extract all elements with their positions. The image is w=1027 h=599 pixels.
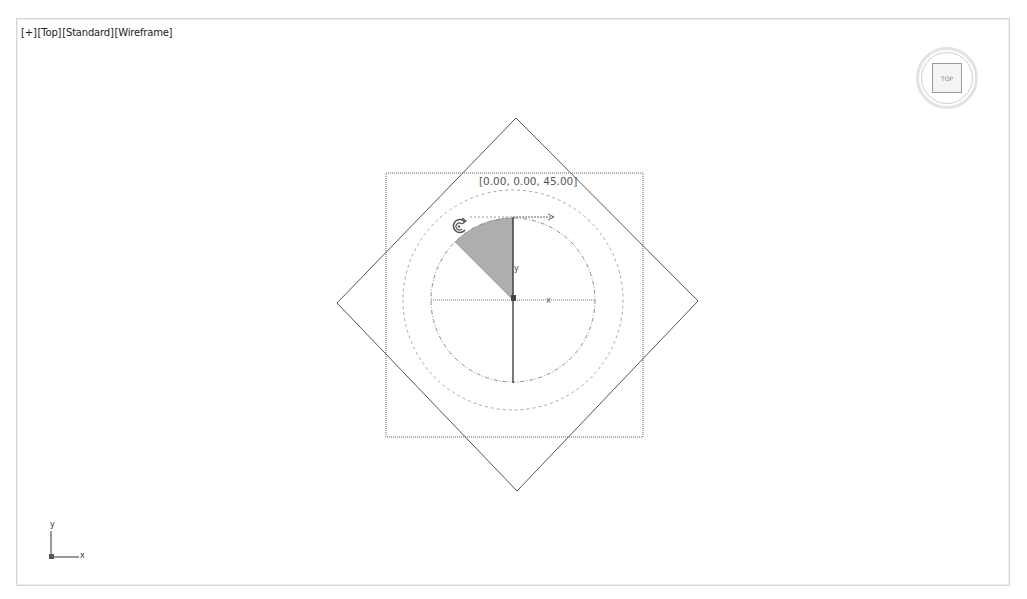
tripod-x-label: x: [80, 551, 85, 560]
rotated-plane-object[interactable]: [337, 118, 698, 491]
viewcube[interactable]: TOP: [916, 47, 978, 109]
viewcube-top-face[interactable]: TOP: [932, 63, 962, 93]
gizmo-x-label: x: [546, 296, 551, 305]
scene-canvas: y x: [0, 0, 1027, 599]
tripod-y-label: y: [50, 520, 55, 529]
axis-tripod: [49, 531, 79, 559]
gizmo-y-label: y: [514, 264, 519, 273]
pivot-marker: [511, 295, 516, 301]
rotate-cursor-icon: [453, 218, 466, 233]
rotation-coordinate-readout: [0.00, 0.00, 45.00]: [479, 175, 577, 187]
app-stage: [+] [Top] [Standard] [Wireframe]: [0, 0, 1027, 599]
